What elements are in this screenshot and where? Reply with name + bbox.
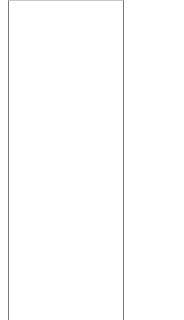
empty-panel — [8, 0, 124, 320]
